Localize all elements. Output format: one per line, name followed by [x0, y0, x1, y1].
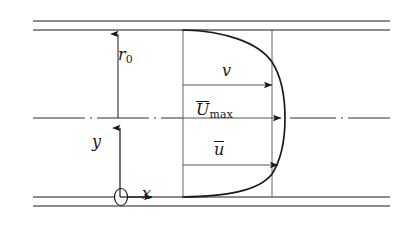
velocity-arrows	[183, 85, 281, 165]
pipe-wall-bottom	[33, 197, 390, 206]
velocity-ubar-label: u	[214, 141, 224, 158]
pipe-wall-top	[33, 21, 390, 30]
velocity-umax-label: Umax	[196, 101, 233, 118]
y-axis-label: y	[92, 134, 101, 150]
velocity-v-label: v	[222, 63, 231, 79]
radius-label: r0	[118, 47, 133, 63]
x-axis-label: x	[142, 186, 151, 202]
pipe-flow-diagram: r0 v Umax u y x	[0, 0, 416, 244]
diagram-canvas	[0, 0, 416, 244]
